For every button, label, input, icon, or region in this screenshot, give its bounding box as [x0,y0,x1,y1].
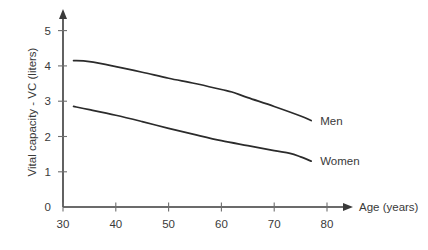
x-tick-label-80: 80 [321,218,334,230]
x-tick-label-50: 50 [162,218,175,230]
series-label-women: Women [320,155,359,167]
y-tick-label-4: 4 [45,60,52,72]
y-axis-arrow-icon [59,9,67,19]
y-axis-title: Vital capacity - VC (liters) [26,47,38,176]
x-tick-label-30: 30 [57,218,70,230]
x-axis-arrow-icon [343,203,353,211]
x-tick-label-60: 60 [215,218,228,230]
line-chart: 5 4 3 2 1 0 30 40 50 60 70 80 Men Women … [0,0,428,250]
y-tick-label-5: 5 [45,25,51,37]
series-line-men [74,61,312,121]
series-label-men: Men [320,115,342,127]
x-tick-label-70: 70 [268,218,281,230]
y-tick-label-0: 0 [45,201,51,213]
series-line-women [74,106,312,161]
y-tick-label-2: 2 [45,131,51,143]
x-tick-label-40: 40 [109,218,122,230]
x-axis-title: Age (years) [359,201,419,213]
y-tick-label-1: 1 [45,166,51,178]
y-tick-label-3: 3 [45,95,51,107]
chart-container: 5 4 3 2 1 0 30 40 50 60 70 80 Men Women … [0,0,428,250]
